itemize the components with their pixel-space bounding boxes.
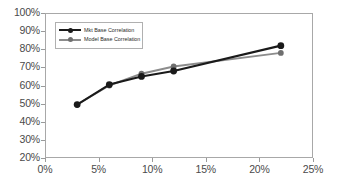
y-axis-tick-label: 30% xyxy=(0,133,40,145)
y-axis-tick-label: 20% xyxy=(0,151,40,163)
legend-swatch-mkt-icon xyxy=(59,26,81,35)
legend-item-model-base-correlation: Model Base Correlation xyxy=(59,35,139,44)
y-axis-tick-label: 100% xyxy=(0,6,40,18)
legend-label-model: Model Base Correlation xyxy=(84,35,140,44)
legend-item-mkt-base-correlation: Mkt Base Correlation xyxy=(59,26,139,35)
x-axis-tick-label: 25% xyxy=(293,163,333,175)
x-axis-tick xyxy=(313,158,314,162)
legend-label-mkt: Mkt Base Correlation xyxy=(84,26,134,35)
y-axis-tick-label: 70% xyxy=(0,60,40,72)
y-axis-tick xyxy=(41,13,45,14)
y-axis-tick-label: 90% xyxy=(0,24,40,36)
x-axis-tick xyxy=(99,158,100,162)
x-axis-tick xyxy=(45,158,46,162)
x-axis-tick-label: 15% xyxy=(186,163,226,175)
x-axis-tick-label: 20% xyxy=(239,163,279,175)
y-axis-tick-label: 60% xyxy=(0,79,40,91)
y-axis-tick-label: 40% xyxy=(0,115,40,127)
chart-legend: Mkt Base Correlation Model Base Correlat… xyxy=(55,22,143,49)
y-axis-tick xyxy=(41,49,45,50)
y-axis-tick xyxy=(41,122,45,123)
legend-swatch-model-icon xyxy=(59,35,81,44)
x-axis-tick xyxy=(152,158,153,162)
y-axis-tick xyxy=(41,86,45,87)
chart-container: 20%30%40%50%60%70%80%90%100% 0%5%10%15%2… xyxy=(0,0,338,188)
y-axis-tick xyxy=(41,104,45,105)
x-axis-tick-label: 5% xyxy=(79,163,119,175)
x-axis-tick xyxy=(259,158,260,162)
x-axis-tick-label: 0% xyxy=(25,163,65,175)
y-axis-tick-label: 80% xyxy=(0,42,40,54)
y-axis-tick xyxy=(41,140,45,141)
y-axis-tick xyxy=(41,31,45,32)
y-axis-tick-label: 50% xyxy=(0,97,40,109)
x-axis-tick-label: 10% xyxy=(132,163,172,175)
x-axis-tick xyxy=(206,158,207,162)
y-axis-tick xyxy=(41,67,45,68)
